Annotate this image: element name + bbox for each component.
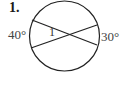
angle-label: 1	[49, 26, 55, 38]
arc-label-left: 40°	[8, 28, 26, 41]
chord-1	[32, 20, 97, 45]
arc-label-right: 30°	[101, 30, 119, 43]
chord-2	[31, 25, 97, 48]
